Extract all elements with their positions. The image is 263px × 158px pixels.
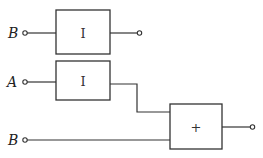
block-middle-symbol: I — [80, 74, 85, 89]
output-terminal-sum — [250, 125, 254, 129]
wire-middle-to-sum — [110, 84, 170, 112]
input-label-b-top: B — [7, 25, 18, 41]
input-terminal-a — [23, 80, 27, 84]
block-diagram: B I A I B + — [0, 0, 263, 158]
block-top-symbol: I — [80, 26, 85, 41]
input-label-a: A — [5, 74, 17, 90]
input-label-b-bottom: B — [7, 132, 18, 148]
sum-block-symbol: + — [191, 120, 202, 135]
input-terminal-b-top — [23, 31, 27, 35]
input-terminal-b-bottom — [23, 138, 27, 142]
output-terminal-top — [137, 31, 141, 35]
